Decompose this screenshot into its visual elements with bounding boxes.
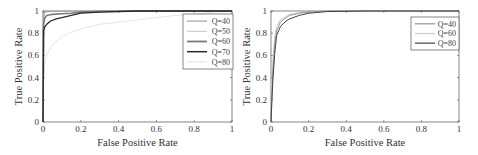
- y-axis-label: True Positive Rate: [13, 27, 24, 105]
- x-axis-label: False Positive Rate: [325, 137, 406, 148]
- legend-label: Q=60: [212, 37, 230, 46]
- roc-figure: 00.20.40.60.8100.20.40.60.81False Positi…: [0, 0, 478, 155]
- roc-chart-1: 00.20.40.60.8100.20.40.60.81False Positi…: [13, 6, 234, 148]
- x-tick-label: 0.4: [341, 124, 353, 134]
- legend: Q=40Q=50Q=60Q=70Q=80: [183, 14, 233, 69]
- x-tick-label: 0: [269, 124, 274, 134]
- x-tick-label: 0.8: [189, 124, 201, 134]
- x-tick-label: 0.6: [378, 124, 390, 134]
- legend-label: Q=60: [438, 29, 456, 38]
- legend-label: Q=50: [212, 27, 230, 36]
- x-tick-label: 1: [457, 124, 462, 134]
- legend-label: Q=80: [212, 58, 230, 67]
- y-tick-label: 0.2: [28, 95, 39, 105]
- x-tick-label: 0.2: [303, 124, 314, 134]
- y-tick-label: 0.4: [28, 73, 40, 83]
- y-axis-label: True Positive Rate: [241, 27, 252, 105]
- y-tick-label: 0.8: [28, 28, 40, 38]
- legend-label: Q=40: [438, 20, 456, 29]
- x-tick-label: 0.6: [151, 124, 163, 134]
- y-tick-label: 0.8: [256, 28, 268, 38]
- y-tick-label: 1: [35, 6, 40, 16]
- x-tick-label: 0.2: [75, 124, 86, 134]
- legend-label: Q=80: [438, 39, 456, 48]
- y-tick-label: 0.6: [256, 50, 268, 60]
- y-tick-label: 0.4: [256, 73, 268, 83]
- x-tick-label: 1: [230, 124, 235, 134]
- y-tick-label: 1: [263, 6, 268, 16]
- y-tick-label: 0: [263, 117, 268, 127]
- x-tick-label: 0.4: [113, 124, 125, 134]
- legend-label: Q=70: [212, 48, 230, 57]
- legend: Q=40Q=60Q=80: [411, 17, 459, 50]
- y-tick-label: 0.6: [28, 50, 40, 60]
- x-tick-label: 0: [41, 124, 46, 134]
- legend-label: Q=40: [212, 17, 230, 26]
- y-tick-label: 0: [35, 117, 40, 127]
- x-tick-label: 0.8: [416, 124, 428, 134]
- x-axis-label: False Positive Rate: [97, 137, 178, 148]
- roc-chart-2: 00.20.40.60.8100.20.40.60.81False Positi…: [241, 6, 461, 148]
- y-tick-label: 0.2: [256, 95, 267, 105]
